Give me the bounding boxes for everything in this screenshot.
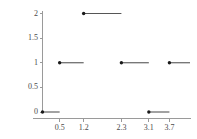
- y-tick-label: 2: [34, 10, 38, 18]
- step-point-marker: [41, 110, 44, 113]
- axes-group: [33, 11, 191, 119]
- step-point-marker: [147, 110, 150, 113]
- step-point-marker: [120, 61, 123, 64]
- x-tick-label: 3.1: [144, 124, 154, 132]
- y-tick-label: 0.5: [28, 83, 38, 91]
- y-tick-label: 1.5: [28, 34, 38, 42]
- x-tick-label: 2.3: [116, 124, 126, 132]
- step-function-chart: 00.511.52 0.51.22.33.13.7: [0, 0, 197, 139]
- x-tick-label: 3.7: [164, 124, 174, 132]
- x-tick-label: 0.5: [55, 124, 65, 132]
- x-tick-label: 1.2: [79, 124, 89, 132]
- step-point-marker: [58, 61, 61, 64]
- y-tick-label: 1: [34, 59, 38, 67]
- step-point-marker: [82, 12, 85, 15]
- chart-canvas: [0, 0, 197, 139]
- y-tick-label: 0: [34, 108, 38, 116]
- step-point-marker: [168, 61, 171, 64]
- step-markers: [41, 12, 171, 114]
